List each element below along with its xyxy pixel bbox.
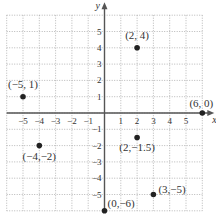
y-tick-label: 4: [97, 43, 102, 53]
point-label: (0,−6): [108, 197, 136, 210]
y-tick-label: −5: [92, 190, 102, 200]
x-tick-label: 3: [151, 116, 156, 126]
coordinate-plane: xy−5−4−3−2−112345−5−4−3−2−112345(2, 4)(−…: [0, 0, 216, 224]
y-axis-arrow-icon: [102, 2, 108, 9]
x-tick-label: −3: [51, 116, 61, 126]
data-point: [20, 94, 26, 100]
point-label: (2,−1.5): [119, 141, 155, 154]
data-point: [37, 143, 43, 149]
y-axis-label: y: [95, 0, 101, 11]
point-label: (−5, 1): [8, 78, 38, 91]
x-tick-label: 4: [167, 116, 172, 126]
x-tick-label: −2: [67, 116, 77, 126]
point-label: (3,−5): [158, 183, 186, 196]
y-tick-label: 3: [97, 59, 102, 69]
y-tick-label: −3: [92, 157, 102, 167]
x-tick-label: −4: [35, 116, 45, 126]
y-tick-label: 5: [97, 27, 102, 37]
point-label: (2, 4): [125, 29, 149, 42]
x-axis-label: x: [211, 114, 216, 125]
y-tick-label: 2: [97, 75, 102, 85]
y-tick-label: −4: [92, 173, 102, 183]
data-point: [134, 135, 140, 141]
point-label: (−4,−2): [23, 150, 57, 163]
y-tick-label: −2: [92, 141, 102, 151]
x-tick-label: −5: [18, 116, 28, 126]
data-point: [200, 110, 206, 116]
y-tick-label: −1: [92, 124, 102, 134]
x-tick-label: 2: [135, 116, 140, 126]
x-tick-label: 1: [119, 116, 124, 126]
data-point: [151, 192, 157, 198]
data-point: [102, 208, 108, 214]
data-point: [134, 45, 140, 51]
y-tick-label: 1: [97, 92, 102, 102]
point-label: (6, 0): [189, 97, 213, 110]
x-tick-label: 5: [184, 116, 189, 126]
